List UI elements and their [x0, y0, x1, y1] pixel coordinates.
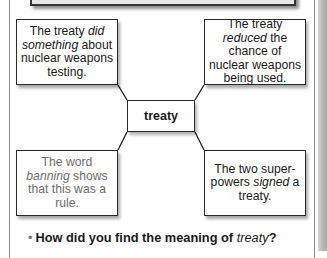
note-text-before: The treaty	[30, 24, 88, 38]
note-text-before: The word	[42, 155, 93, 169]
note-top-left: The treaty did something about nuclear w…	[16, 19, 118, 85]
question-prompt: •How did you find the meaning of treaty?	[28, 230, 318, 245]
note-text: The treaty did something about nuclear w…	[19, 25, 115, 79]
note-text-before: The treaty	[228, 17, 283, 31]
center-concept-box: treaty	[127, 100, 195, 132]
note-text: The treaty reduced the chance of nuclear…	[207, 18, 303, 86]
note-top-right: The treaty reduced the chance of nuclear…	[204, 19, 306, 85]
note-emphasis: signed	[253, 175, 289, 189]
center-concept-label: treaty	[144, 109, 178, 123]
question-text-before: How did you find the meaning of	[35, 230, 236, 245]
note-emphasis: reduced	[223, 31, 267, 45]
note-text: The word banning shows that this was a r…	[19, 156, 115, 210]
bullet-icon: •	[28, 230, 32, 245]
note-bottom-left: The word banning shows that this was a r…	[16, 150, 118, 216]
question-text-after: ?	[269, 230, 277, 245]
note-emphasis: banning	[26, 169, 69, 183]
question-emphasis: treaty	[237, 230, 269, 245]
note-bottom-right: The two super-powers signed a treaty.	[204, 150, 306, 216]
note-text: The two super-powers signed a treaty.	[207, 163, 303, 204]
